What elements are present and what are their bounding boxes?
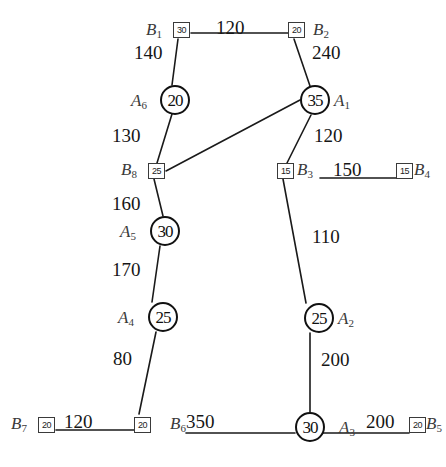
edge-weight-b3-b4: 150 xyxy=(333,160,362,179)
edge-weight-a6-b8: 130 xyxy=(112,126,141,145)
node-b1[interactable]: 30 xyxy=(173,22,190,38)
node-label-b6: B6 xyxy=(170,415,186,432)
edge-weight-b7-b6: 120 xyxy=(64,412,93,431)
edge-weight-a3-b5: 200 xyxy=(366,412,395,431)
node-label-subscript: 1 xyxy=(344,99,350,111)
edge-weight-b2-a1: 240 xyxy=(312,43,341,62)
node-label-base: B xyxy=(414,160,424,179)
node-label-base: A xyxy=(118,308,128,327)
node-label-a3: A3 xyxy=(339,419,355,436)
node-label-subscript: 8 xyxy=(131,168,137,180)
edge-weight-b3-a2: 110 xyxy=(312,227,340,246)
node-label-base: B xyxy=(297,160,307,179)
edge-weight-a1-b3: 120 xyxy=(314,126,343,145)
node-label-subscript: 7 xyxy=(21,422,27,434)
node-b6[interactable]: 20 xyxy=(134,417,151,433)
edge-b2-a1 xyxy=(294,39,310,86)
edge-a6-b8 xyxy=(157,114,172,163)
node-b2[interactable]: 20 xyxy=(288,22,305,38)
edge-b8-a5 xyxy=(154,179,163,216)
node-label-base: B xyxy=(121,160,131,179)
node-b4[interactable]: 15 xyxy=(396,163,413,179)
node-label-base: B xyxy=(11,414,21,433)
edge-a4-b6 xyxy=(139,332,156,414)
node-label-subscript: 4 xyxy=(128,316,134,328)
edge-weight-b6-a3: 350 xyxy=(186,412,215,431)
edge-b1-a6 xyxy=(172,39,178,85)
node-a5[interactable]: 30 xyxy=(150,216,180,246)
node-label-base: B xyxy=(146,20,156,39)
node-label-b2: B2 xyxy=(313,21,329,38)
edge-weight-a4-b6: 80 xyxy=(113,349,132,368)
node-label-a1: A1 xyxy=(334,92,350,109)
node-label-b7: B7 xyxy=(11,415,27,432)
node-label-subscript: 2 xyxy=(348,317,354,329)
edge-weight-a2-a3: 200 xyxy=(321,350,350,369)
node-label-base: A xyxy=(131,91,141,110)
edge-weight-b1-a6: 140 xyxy=(134,43,163,62)
node-a1[interactable]: 35 xyxy=(300,85,330,115)
node-b8[interactable]: 25 xyxy=(148,163,165,179)
node-label-subscript: 4 xyxy=(424,168,430,180)
node-label-a2: A2 xyxy=(338,310,354,327)
node-label-base: A xyxy=(120,222,130,241)
node-a3[interactable]: 30 xyxy=(295,412,325,442)
node-label-base: B xyxy=(426,414,436,433)
edge-b3-a2 xyxy=(283,179,306,303)
node-a2[interactable]: 25 xyxy=(304,303,334,333)
node-label-subscript: 5 xyxy=(130,230,136,242)
node-label-subscript: 1 xyxy=(156,28,162,40)
node-label-a5: A5 xyxy=(120,223,136,240)
node-label-b3: B3 xyxy=(297,161,313,178)
node-label-b5: B5 xyxy=(426,415,442,432)
edge-weight-b8-a5: 160 xyxy=(112,194,141,213)
node-label-a6: A6 xyxy=(131,92,147,109)
node-label-subscript: 3 xyxy=(307,168,313,180)
node-label-b1: B1 xyxy=(146,21,162,38)
node-b7[interactable]: 20 xyxy=(38,417,55,433)
node-a6[interactable]: 20 xyxy=(160,85,190,115)
node-b3[interactable]: 15 xyxy=(277,163,294,179)
edge-a5-a4 xyxy=(152,246,160,302)
network-diagram-canvas: 1201402401301201501601701108020012035020… xyxy=(0,0,446,467)
edges-layer xyxy=(0,0,446,467)
node-b5[interactable]: 20 xyxy=(409,417,426,433)
edge-a1-b3 xyxy=(287,115,311,163)
node-label-subscript: 6 xyxy=(141,99,147,111)
node-a4[interactable]: 25 xyxy=(148,302,178,332)
node-label-subscript: 6 xyxy=(180,422,186,434)
node-label-base: B xyxy=(313,20,323,39)
node-label-b4: B4 xyxy=(414,161,430,178)
edge-weight-a5-a4: 170 xyxy=(112,260,141,279)
node-label-subscript: 5 xyxy=(436,422,442,434)
node-label-base: A xyxy=(334,91,344,110)
node-label-base: B xyxy=(170,414,180,433)
edge-a1-b8 xyxy=(166,100,300,171)
node-label-subscript: 3 xyxy=(349,426,355,438)
node-label-base: A xyxy=(338,309,348,328)
node-label-a4: A4 xyxy=(118,309,134,326)
node-label-b8: B8 xyxy=(121,161,137,178)
node-label-base: A xyxy=(339,418,349,437)
edge-weight-b1-b2: 120 xyxy=(216,18,245,37)
node-label-subscript: 2 xyxy=(323,28,329,40)
